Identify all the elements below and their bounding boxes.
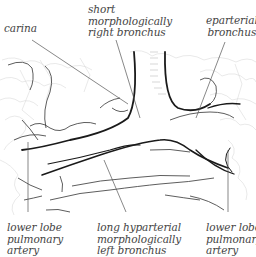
label-line: right bronchus	[88, 27, 172, 39]
label-line: long hyparterial	[97, 222, 181, 234]
label-carina: carina	[4, 23, 37, 35]
label-line: carina	[4, 23, 37, 35]
bronchus-outline	[22, 52, 240, 175]
label-lower-lobe-pulmonary-artery-left: lower lobe pulmonary artery	[7, 222, 63, 257]
label-line: artery	[7, 245, 63, 257]
label-line: artery	[206, 245, 256, 257]
label-lower-lobe-pulmonary-artery-right: lower lobe pulmonary artery	[206, 222, 256, 257]
bronchial-diagram	[0, 0, 256, 257]
label-line: bronchus	[206, 27, 256, 39]
label-line: lower lobe	[7, 222, 63, 234]
label-line: eparterial	[206, 15, 256, 27]
label-long-hyparterial-left-bronchus: long hyparterial morphologically left br…	[97, 222, 181, 257]
trachea-hatching	[150, 52, 166, 94]
lung-texture	[0, 51, 256, 215]
label-short-right-bronchus: short morphologically right bronchus	[88, 4, 172, 39]
label-eparterial-bronchus: eparterial bronchus	[206, 15, 256, 38]
label-line: lower lobe	[206, 222, 256, 234]
label-line: short	[88, 4, 172, 16]
label-line: left bronchus	[97, 245, 181, 257]
leader-lines	[28, 40, 228, 212]
